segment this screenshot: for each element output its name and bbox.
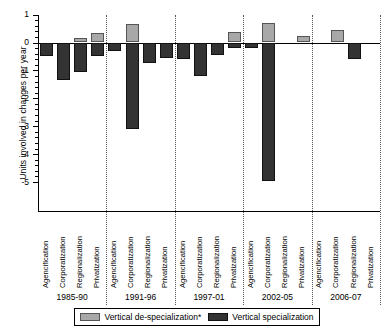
category-label: Regionalization bbox=[350, 236, 358, 288]
category-label: Privatization bbox=[298, 247, 306, 288]
period-label: 1985-90 bbox=[38, 292, 106, 302]
category-label: Corporatization bbox=[127, 237, 135, 289]
period-label: 2002-05 bbox=[243, 292, 311, 302]
category-label: Agencification bbox=[247, 241, 255, 288]
category-label: Agencification bbox=[315, 241, 323, 288]
category-label: Agencification bbox=[110, 241, 118, 288]
category-label: Regionalization bbox=[144, 236, 152, 288]
category-label: Privatization bbox=[367, 247, 375, 288]
category-label: Regionalization bbox=[213, 236, 221, 288]
period-label: 1997-01 bbox=[175, 292, 243, 302]
category-label: Corporatization bbox=[59, 237, 67, 289]
period-label: 2006-07 bbox=[312, 292, 380, 302]
legend-swatch-dark-icon bbox=[208, 313, 228, 321]
chart-legend: Vertical de-specialization* Vertical spe… bbox=[74, 308, 320, 326]
legend-label-specialization: Vertical specialization bbox=[232, 313, 313, 322]
category-label: Regionalization bbox=[76, 236, 84, 288]
category-label: Privatization bbox=[93, 247, 101, 288]
category-label: Corporatization bbox=[196, 237, 204, 289]
category-label: Regionalization bbox=[281, 236, 289, 288]
bar-chart: Units involved in changes per year 10-1-… bbox=[0, 0, 385, 332]
legend-item-specialization: Vertical specialization bbox=[208, 313, 313, 322]
legend-label-de-specialization: Vertical de-specialization* bbox=[104, 313, 201, 322]
period-label: 1991-96 bbox=[106, 292, 174, 302]
legend-item-de-specialization: Vertical de-specialization* bbox=[80, 313, 201, 322]
category-labels: AgencificationCorporatizationRegionaliza… bbox=[0, 0, 385, 332]
category-label: Privatization bbox=[230, 247, 238, 288]
category-label: Corporatization bbox=[332, 237, 340, 289]
category-label: Corporatization bbox=[264, 237, 272, 289]
category-label: Privatization bbox=[161, 247, 169, 288]
category-label: Agencification bbox=[42, 241, 50, 288]
legend-swatch-light-icon bbox=[80, 313, 100, 321]
category-label: Agencification bbox=[179, 241, 187, 288]
